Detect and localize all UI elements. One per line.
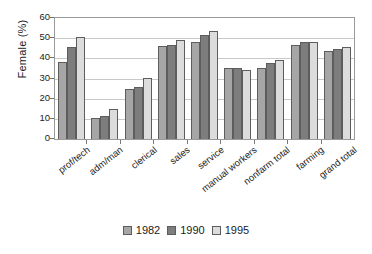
bar [191, 42, 200, 139]
legend-item[interactable]: 1990 [167, 225, 204, 236]
bar [257, 68, 266, 139]
y-tick-mark [50, 118, 54, 119]
bar-chart: Female (%) 6050403020100 prof/techadm/ma… [0, 0, 372, 254]
legend-swatch [212, 226, 221, 235]
bar [100, 116, 109, 139]
legend-swatch [167, 226, 176, 235]
legend-label: 1990 [180, 225, 204, 236]
y-tick-label: 10 [26, 113, 50, 123]
x-tick-label: prof/tech [56, 144, 92, 175]
bar [333, 49, 342, 139]
legend-item[interactable]: 1982 [123, 225, 160, 236]
x-axis-labels: prof/techadm/manclericalsalesservicemanu… [54, 144, 355, 210]
legend-label: 1995 [225, 225, 249, 236]
y-tick-mark [50, 17, 54, 18]
bar [134, 87, 143, 139]
y-tick-mark [50, 138, 54, 139]
y-tick-mark [50, 78, 54, 79]
bar [176, 40, 185, 139]
bar-group [88, 18, 121, 139]
bar [291, 45, 300, 139]
legend-item[interactable]: 1995 [212, 225, 249, 236]
bar [266, 63, 275, 139]
bar [275, 60, 284, 139]
y-tick-label: 50 [26, 32, 50, 42]
bar-group [288, 18, 321, 139]
bar-group [188, 18, 221, 139]
bar-group [155, 18, 188, 139]
x-tick-label: sales [168, 144, 192, 166]
y-tick-label: 40 [26, 52, 50, 62]
y-tick-mark [50, 37, 54, 38]
bar [233, 68, 242, 139]
bar [342, 47, 351, 139]
bar [242, 70, 251, 139]
bar [67, 47, 76, 139]
bar [76, 37, 85, 139]
y-tick-mark [50, 98, 54, 99]
bar-group [55, 18, 88, 139]
legend-swatch [123, 226, 132, 235]
bar [158, 46, 167, 139]
bar [125, 89, 134, 139]
bar-group [254, 18, 287, 139]
legend-label: 1982 [136, 225, 160, 236]
y-tick-label: 30 [26, 73, 50, 83]
bar-groups [55, 18, 354, 139]
bar [200, 35, 209, 139]
y-tick-label: 60 [26, 12, 50, 22]
bar [324, 51, 333, 139]
bar [91, 118, 100, 139]
bar [224, 68, 233, 139]
bar [209, 31, 218, 139]
y-tick-label: 20 [26, 93, 50, 103]
bar-group [221, 18, 254, 139]
y-tick-label: 0 [26, 133, 50, 143]
bar [309, 42, 318, 139]
y-tick-mark [50, 57, 54, 58]
bar [167, 45, 176, 139]
bar-group [321, 18, 354, 139]
bar [143, 78, 152, 139]
bar [58, 62, 67, 139]
x-tick-label: adm/man [87, 144, 125, 177]
bar [109, 109, 118, 139]
bar [300, 42, 309, 139]
bar-group [121, 18, 154, 139]
x-tick-label: clerical [128, 144, 158, 171]
chart-legend: 198219901995 [0, 225, 372, 236]
